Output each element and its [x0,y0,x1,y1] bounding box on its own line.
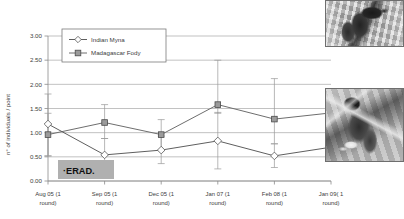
x-tick-label-line1: Sep 05 (1 [92,191,118,197]
y-tick-label: 0.50 [30,153,43,160]
y-tick-label: 2.00 [30,81,43,88]
data-point [158,132,164,138]
x-tick-label-line2: round) [209,200,226,206]
legend-label-madagascar-fody: Madagascar Fody [91,49,141,56]
legend-label-indian-myna: Indian Myna [91,36,125,43]
legend-item-madagascar-fody[interactable]: Madagascar Fody [69,49,141,56]
madagascar-fody-photo [325,0,404,47]
x-tick-label-line2: round) [96,200,113,206]
x-tick-label-line2: round) [266,200,283,206]
chart-legend: Indian Myna Madagascar Fody [62,29,166,62]
eradication-marker-label: ·ERAD. [63,166,95,176]
indian-myna-photo [325,88,404,162]
x-axis [48,181,331,185]
y-axis [45,36,49,181]
data-point [215,102,221,108]
y-tick-label: 1.00 [30,129,43,136]
data-point [272,116,278,122]
x-tick-labels: Aug 05 (1 round) Sep 05 (1 round) Dec 05… [35,191,343,206]
x-tick-label-line1: Dec 05 (1 [148,191,174,197]
x-tick-label-line2: round) [39,200,56,206]
y-tick-label: 3.00 [30,32,43,39]
y-tick-label: 1.50 [30,105,43,112]
x-tick-label-line1: Jan 07 (1 [206,191,231,197]
photo-sheen-layer [326,1,403,46]
eradication-marker: ·ERAD. [58,160,114,179]
legend-item-indian-myna[interactable]: Indian Myna [69,36,125,43]
legend-background [62,29,166,62]
y-tick-labels: 3.00 2.50 2.00 1.50 1.00 0.50 0.00 [30,32,43,184]
x-tick-label-line1: Aug 05 (1 [35,191,61,197]
x-tick-label-line2: round) [322,200,339,206]
data-point [102,120,108,126]
y-tick-label: 0.00 [30,177,43,184]
photo-branch-layer [326,89,403,161]
legend-marker-filled-square-icon [75,50,81,56]
x-tick-label-line2: round) [153,200,170,206]
y-axis-title: n° of individuals / point [4,94,11,155]
x-tick-label-line1: Jan 09( 1 [319,191,344,197]
data-point [45,132,51,138]
y-tick-label: 2.50 [30,56,43,63]
x-tick-label-line1: Feb 08 (1 [262,191,287,197]
